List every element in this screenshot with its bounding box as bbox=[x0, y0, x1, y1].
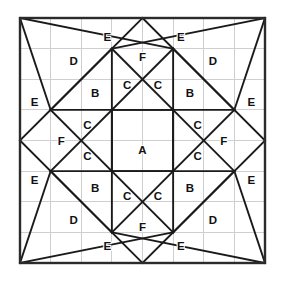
label-e-left-top: E bbox=[31, 96, 39, 108]
label-b-bottom-right: B bbox=[186, 182, 194, 194]
segment-corner-bl-b bbox=[20, 232, 173, 263]
label-c-right-upper: C bbox=[193, 119, 201, 131]
label-f-top: F bbox=[139, 51, 146, 63]
label-d-top-right: D bbox=[209, 55, 217, 67]
label-c-bottom-right: C bbox=[154, 190, 162, 202]
segment-corner-br-b bbox=[112, 232, 265, 263]
label-c-top-left: C bbox=[123, 79, 131, 91]
label-d-bottom-right: D bbox=[209, 214, 217, 226]
label-b-bottom-left: B bbox=[91, 182, 99, 194]
label-c-left-lower: C bbox=[83, 150, 91, 162]
label-e-right-bottom: E bbox=[247, 174, 255, 186]
label-a-center: A bbox=[138, 144, 146, 156]
label-c-bottom-left: C bbox=[123, 190, 131, 202]
region-labels: ABBBBCCCCCCCCDDDDEEEEEEEEFFFF bbox=[31, 31, 256, 252]
label-c-right-lower: C bbox=[193, 150, 201, 162]
label-b-top-left: B bbox=[91, 87, 99, 99]
segment-corner-tl-b bbox=[20, 18, 173, 49]
label-e-left-bottom: E bbox=[31, 174, 39, 186]
label-b-top-right: B bbox=[186, 87, 194, 99]
label-e-top-left: E bbox=[103, 31, 111, 43]
label-e-right-top: E bbox=[247, 96, 255, 108]
label-d-top-left: D bbox=[69, 55, 77, 67]
label-f-left: F bbox=[58, 135, 65, 147]
label-f-bottom: F bbox=[139, 221, 146, 233]
label-e-top-right: E bbox=[177, 31, 185, 43]
dissection-figure: ABBBBCCCCCCCCDDDDEEEEEEEEFFFF bbox=[0, 0, 281, 282]
label-c-left-upper: C bbox=[83, 119, 91, 131]
segment-corner-tr-b bbox=[112, 18, 265, 49]
label-f-right: F bbox=[220, 135, 227, 147]
label-e-bottom-right: E bbox=[177, 240, 185, 252]
label-c-top-right: C bbox=[154, 79, 162, 91]
label-d-bottom-left: D bbox=[69, 214, 77, 226]
diagram-canvas: ABBBBCCCCCCCCDDDDEEEEEEEEFFFF bbox=[0, 0, 281, 282]
label-e-bottom-left: E bbox=[103, 240, 111, 252]
